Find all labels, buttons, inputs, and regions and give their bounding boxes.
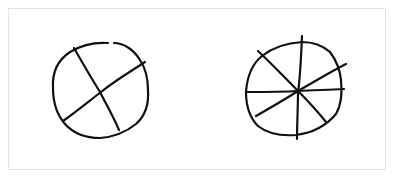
- circle-eighths: [246, 36, 346, 139]
- diagram-canvas: [0, 0, 394, 181]
- divider-line-1: [74, 48, 119, 130]
- circle-outline: [53, 43, 148, 138]
- circle-quarters: [53, 43, 148, 138]
- divider-line-vertical: [297, 36, 302, 139]
- divider-line-2: [63, 62, 145, 121]
- circle-outline: [246, 42, 341, 135]
- divider-line-diagonal-1: [258, 51, 326, 122]
